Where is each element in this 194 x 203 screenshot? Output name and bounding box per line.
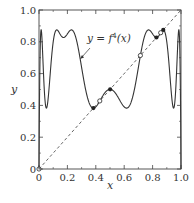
stable-point-marker bbox=[154, 35, 158, 39]
y-axis-label: y bbox=[10, 83, 18, 96]
stable-point-marker bbox=[91, 106, 95, 110]
unstable-point-marker bbox=[138, 53, 142, 57]
unstable-point-marker bbox=[159, 31, 163, 35]
x-tick-label: 1.0 bbox=[173, 172, 189, 183]
annotation: y = f4(x) bbox=[80, 32, 131, 59]
f4-curve bbox=[39, 30, 181, 169]
y-tick-label: 0.2 bbox=[20, 132, 36, 143]
y-tick-label: 1.0 bbox=[20, 5, 36, 16]
x-axis-label: x bbox=[107, 179, 114, 192]
chart: 00.20.40.60.81.000.20.40.60.81.0 y = f4(… bbox=[0, 0, 194, 203]
x-tick-label: 0.4 bbox=[88, 172, 104, 183]
annotation-arrow bbox=[82, 48, 90, 57]
y-tick-label: 0.8 bbox=[20, 36, 36, 47]
x-tick-label: 0.2 bbox=[59, 172, 75, 183]
x-tick-label: 0 bbox=[36, 172, 42, 183]
y-tick-label: 0 bbox=[30, 164, 36, 175]
y-tick-label: 0.4 bbox=[20, 100, 36, 111]
x-tick-label: 0.6 bbox=[116, 172, 132, 183]
y-tick-label: 0.6 bbox=[20, 68, 36, 79]
annotation-label: y = f4(x) bbox=[86, 32, 131, 44]
x-tick-label: 0.8 bbox=[145, 172, 161, 183]
unstable-point-marker bbox=[98, 99, 102, 103]
stable-point-marker bbox=[108, 87, 112, 91]
